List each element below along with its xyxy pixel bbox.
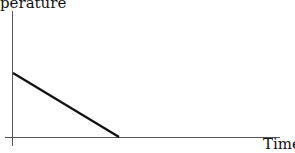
temperature-time-chart: perature Time (0, 0, 295, 153)
x-axis-label: Time (263, 137, 295, 152)
data-line-temperature (13, 73, 119, 137)
chart-canvas (0, 0, 295, 153)
y-axis-label: perature (0, 0, 66, 11)
